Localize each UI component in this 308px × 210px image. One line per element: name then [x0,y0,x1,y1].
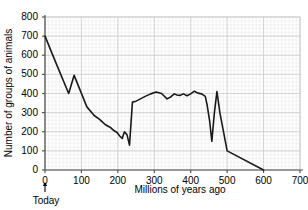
y-tick-label: 0 [12,165,38,175]
x-tick-label: 400 [174,176,208,186]
x-tick-label: 100 [64,176,98,186]
x-tick-label: 200 [101,176,135,186]
x-tick-label: 300 [137,176,171,186]
y-tick-label: 500 [12,69,38,79]
chart-container: Number of groups of animals Millions of … [0,0,308,210]
y-tick-label: 100 [12,146,38,156]
y-tick-label: 700 [12,31,38,41]
x-tick-label: 500 [210,176,244,186]
x-tick-label: 700 [283,176,308,186]
x-tick-label: 0 [28,176,62,186]
y-tick-label: 300 [12,108,38,118]
y-tick-label: 800 [12,12,38,22]
y-tick-label: 200 [12,127,38,137]
y-tick-label: 400 [12,89,38,99]
today-annotation-label: Today [24,195,68,206]
x-tick-label: 600 [247,176,281,186]
y-tick-label: 600 [12,50,38,60]
